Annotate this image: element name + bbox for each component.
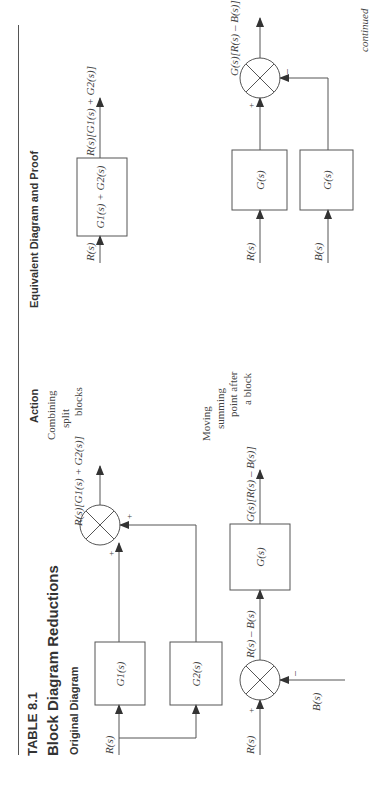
- row1-eq-input-label: R(s): [84, 242, 97, 262]
- row2-orig-output-label: G(s)[R(s) – B(s)]: [244, 446, 257, 522]
- row1-orig-input-label: R(s): [103, 735, 116, 755]
- row2-orig-sign-plus: +: [246, 708, 256, 713]
- row2-eq-g2-label: G(s): [321, 170, 334, 190]
- row2-eq-input1-label: R(s): [244, 242, 257, 262]
- block-diagrams: R(s) G1(s) G2(s) + + R(s)[G1(s) + G2(s)]…: [0, 0, 391, 788]
- continued-label: continued: [358, 9, 370, 52]
- row2-orig-sign-minus: –: [289, 670, 300, 677]
- row1-eq-output-label: R(s)[G1(s) + G2(s)]: [84, 66, 97, 157]
- row2-eq-output-label: G(s)[R(s) – B(s)]: [228, 0, 241, 76]
- row2-eq-g1-label: G(s): [254, 170, 267, 190]
- row2-eq-input2-label: B(s): [312, 242, 325, 261]
- rotated-page: TABLE 8.1 Block Diagram Reductions Origi…: [0, 0, 391, 788]
- row2-eq-sign-plus: +: [246, 103, 256, 108]
- row1-orig-g1-label: G1(s): [114, 661, 127, 686]
- row2-eq-sign-minus: –: [281, 68, 292, 75]
- row1-orig-output-label: R(s)[G1(s) + G2(s)]: [72, 436, 85, 527]
- row2-orig-g-label: G(s): [254, 547, 267, 567]
- row1-orig-g2-label: G2(s): [190, 661, 203, 686]
- row1-orig-sign2: +: [124, 514, 134, 519]
- row1-orig-sign1: +: [106, 551, 116, 556]
- row2-orig-input-label: R(s): [244, 735, 257, 755]
- row2-orig-feedback-label: B(s): [310, 692, 323, 711]
- row2-orig-summer-output-label: R(s) – B(s): [244, 610, 257, 659]
- row1-eq-box-label: G1(s) + G2(s): [94, 165, 107, 228]
